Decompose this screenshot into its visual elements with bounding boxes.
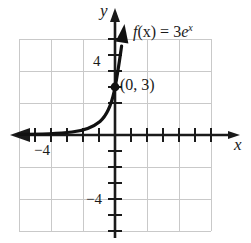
y-tick-label-4: 4 (93, 54, 101, 69)
function-exponent-x: x (188, 22, 192, 33)
point-label-0-3: (0, 3) (120, 77, 155, 93)
y-axis (110, 8, 120, 238)
graph-canvas (0, 0, 251, 243)
x-tick-label-neg4: −4 (34, 143, 50, 158)
exponential-curve (18, 24, 128, 134)
y-axis-label: y (100, 2, 108, 19)
graph-figure: y x 4 −4 −4 (0, 3) f(x) = 3ex (0, 0, 251, 243)
point-marker-0-3 (111, 83, 120, 92)
y-tick-label-neg4: −4 (86, 192, 102, 207)
function-equation-label: f(x) = 3ex (133, 23, 193, 40)
x-axis-label: x (234, 136, 242, 153)
function-arg-text: (x) = 3 (137, 23, 181, 40)
